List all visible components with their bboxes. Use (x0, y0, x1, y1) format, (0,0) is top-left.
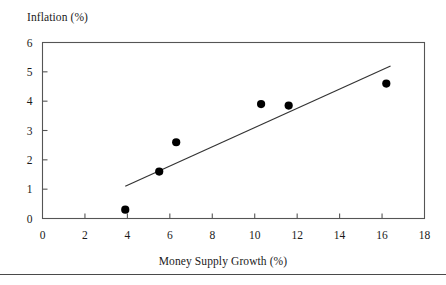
x-axis-tick-label: 10 (249, 229, 261, 241)
chart-figure: Inflation (%) 0123456024681012141618 Mon… (0, 0, 446, 285)
data-point-marker (155, 167, 163, 175)
data-point-marker (285, 101, 293, 109)
x-axis-tick-label: 2 (82, 229, 88, 241)
y-axis-tick-label: 2 (27, 154, 33, 166)
y-axis-tick-label: 6 (27, 37, 33, 49)
x-axis-tick-label: 0 (40, 229, 46, 241)
data-point-marker (172, 138, 180, 146)
x-axis-tick-label: 6 (167, 229, 173, 241)
y-axis-tick-label: 3 (27, 125, 33, 137)
x-axis-title: Money Supply Growth (%) (0, 255, 446, 267)
x-axis-tick-label: 14 (334, 229, 346, 241)
x-axis-tick-label: 12 (291, 229, 303, 241)
plot-frame (43, 43, 425, 219)
x-axis-tick-label: 16 (376, 229, 388, 241)
data-point-marker (382, 79, 390, 87)
footer-divider (0, 274, 446, 275)
data-point-marker (121, 206, 129, 214)
scatter-plot-canvas: 0123456024681012141618 (0, 0, 446, 285)
trend-line (125, 66, 390, 186)
y-axis-tick-label: 1 (27, 183, 33, 195)
data-point-marker (257, 100, 265, 108)
y-axis-tick-label: 4 (27, 95, 33, 107)
y-axis-tick-label: 5 (27, 66, 33, 78)
x-axis-tick-label: 8 (209, 229, 215, 241)
x-axis-tick-label: 4 (125, 229, 131, 241)
y-axis-tick-label: 0 (27, 213, 33, 225)
x-axis-tick-label: 18 (419, 229, 431, 241)
